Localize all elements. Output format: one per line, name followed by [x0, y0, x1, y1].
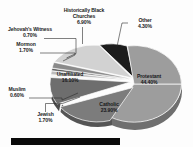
label-historically-black-churches: Historically Black Churches 6.90%	[58, 8, 110, 26]
label-other-value: 4.30%	[128, 24, 162, 30]
bottom-black-bar	[11, 138, 120, 145]
label-jehovahs-witness: Jehovah's Witness 0.70%	[2, 27, 58, 39]
label-jewish: Jewish 1.70%	[29, 112, 62, 124]
label-hbc-value: 6.90%	[58, 20, 110, 26]
label-jw-value: 0.70%	[2, 33, 58, 39]
label-muslim-value: 0.60%	[2, 93, 32, 99]
label-catholic: Catholic 23.90%	[88, 102, 130, 114]
label-jewish-value: 1.70%	[29, 118, 62, 124]
label-unaffiliated-value: 16.10%	[46, 78, 94, 84]
label-protestant: Protestant 44.40%	[126, 74, 172, 86]
label-protestant-value: 44.40%	[126, 80, 172, 86]
label-mormon: Mormon 1.70%	[8, 42, 44, 54]
label-muslim: Muslim 0.60%	[2, 87, 32, 99]
leader-line-other	[117, 23, 128, 47]
label-mormon-value: 1.70%	[8, 48, 44, 54]
label-unaffiliated: Unaffiliated 16.10%	[46, 72, 94, 84]
label-other: Other 4.30%	[128, 18, 162, 30]
pie-chart-figure: Historically Black Churches 6.90% Other …	[0, 0, 193, 147]
label-catholic-value: 23.90%	[88, 108, 130, 114]
